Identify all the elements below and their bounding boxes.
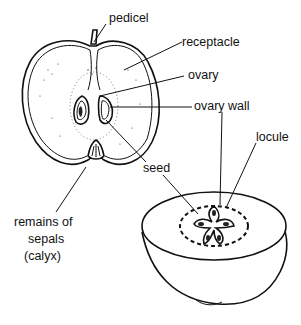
apple-transverse-section <box>142 192 287 305</box>
label-pedicel: pedicel <box>109 11 149 25</box>
label-ovary-wall: ovary wall <box>194 99 250 113</box>
label-receptacle: receptacle <box>182 35 240 49</box>
label-sepals-line1: remains of <box>14 215 73 229</box>
label-locule: locule <box>256 130 289 144</box>
label-ovary: ovary <box>188 68 219 82</box>
label-sepals-line3: (calyx) <box>24 249 61 263</box>
apple-longitudinal-section <box>22 30 159 164</box>
apple-structure-diagram: pedicel receptacle ovary ovary wall locu… <box>0 0 301 325</box>
label-seed: seed <box>143 161 170 175</box>
label-sepals-line2: sepals <box>28 232 64 246</box>
